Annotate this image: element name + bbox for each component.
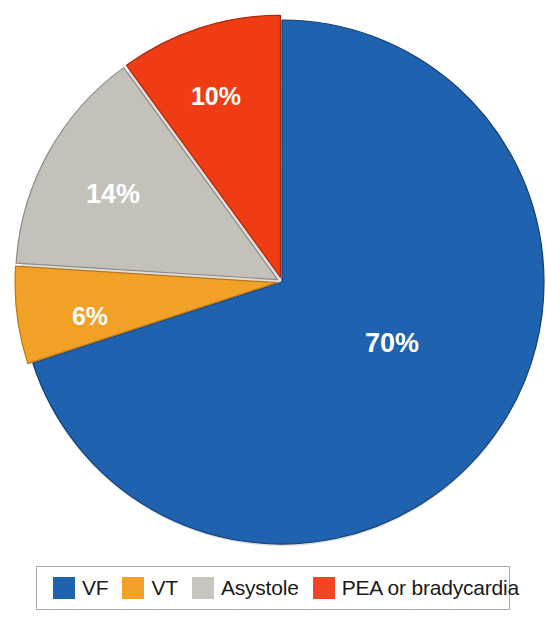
pie-plot-area: 70%6%14%10% xyxy=(0,0,546,556)
legend-item-label: VF xyxy=(82,576,108,600)
pie-slice-value-label: 70% xyxy=(365,328,419,358)
legend-item-vf[interactable]: VF xyxy=(53,576,108,600)
legend-item-pea-or-bradycardia[interactable]: PEA or bradycardia xyxy=(313,576,519,600)
legend-item-label: VT xyxy=(151,576,177,600)
pie-slice-value-label: 6% xyxy=(72,302,108,330)
chart-legend: VFVTAsystolePEA or bradycardia xyxy=(36,566,510,610)
legend-item-label: PEA or bradycardia xyxy=(342,576,519,600)
pie-slice-value-label: 14% xyxy=(86,179,140,209)
pie-svg: 70%6%14%10% xyxy=(0,0,546,556)
pie-slice-value-label: 10% xyxy=(191,82,241,110)
legend-item-asystole[interactable]: Asystole xyxy=(192,576,299,600)
legend-swatch-icon xyxy=(192,577,214,599)
legend-swatch-icon xyxy=(122,577,144,599)
pie-chart-figure: 70%6%14%10% VFVTAsystolePEA or bradycard… xyxy=(0,0,546,624)
legend-swatch-icon xyxy=(53,577,75,599)
legend-swatch-icon xyxy=(313,577,335,599)
legend-item-label: Asystole xyxy=(221,576,299,600)
legend-item-vt[interactable]: VT xyxy=(122,576,177,600)
